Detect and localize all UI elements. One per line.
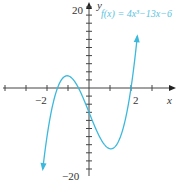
function-label: f(x) = 4x³−13x−6 [101,8,172,20]
y-tick-label-neg20: −20 [62,170,80,181]
function-graph: 20 −20 −2 2 x y f(x) = 4x³−13x−6 [0,0,185,181]
function-curve [43,36,138,169]
curve-arrow-down [41,163,47,171]
x-tick-label-2: 2 [133,94,139,106]
x-tick-label-neg2: −2 [35,94,47,106]
y-axis [86,2,92,176]
curve-arrow-up [134,34,140,42]
y-tick-label-20: 20 [72,4,84,16]
x-axis-label: x [166,94,172,106]
